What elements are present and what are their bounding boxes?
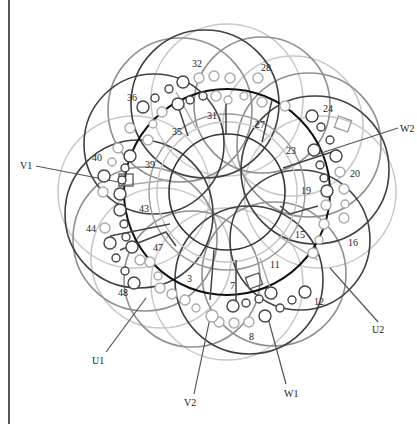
svg-text:16: 16 — [348, 237, 358, 248]
svg-text:19: 19 — [301, 185, 311, 196]
svg-text:44: 44 — [86, 223, 96, 234]
terminal-v1: V1 — [20, 160, 32, 171]
terminal-w2: W2 — [400, 123, 414, 134]
terminal-labels: V1 W2 U1 V2 W1 U2 — [20, 123, 414, 408]
svg-text:43: 43 — [139, 203, 149, 214]
svg-text:40: 40 — [92, 152, 102, 163]
terminal-w1: W1 — [284, 388, 298, 399]
svg-text:32: 32 — [192, 58, 202, 69]
svg-text:24: 24 — [323, 103, 333, 114]
svg-text:28: 28 — [261, 62, 271, 73]
svg-text:48: 48 — [118, 287, 128, 298]
svg-text:3: 3 — [187, 273, 192, 284]
winding-diagram: 3 7 11 15 19 23 27 31 35 39 43 47 8 12 1… — [0, 0, 417, 424]
svg-text:20: 20 — [350, 168, 360, 179]
svg-text:11: 11 — [270, 259, 280, 270]
terminal-u1: U1 — [92, 355, 104, 366]
svg-text:23: 23 — [286, 145, 296, 156]
svg-text:27: 27 — [255, 119, 265, 130]
svg-text:8: 8 — [249, 331, 254, 342]
svg-text:39: 39 — [145, 159, 155, 170]
svg-text:12: 12 — [314, 296, 324, 307]
svg-text:31: 31 — [207, 110, 217, 121]
svg-text:7: 7 — [230, 280, 235, 291]
svg-text:15: 15 — [295, 229, 305, 240]
svg-text:47: 47 — [153, 242, 163, 253]
coil-node-chain-ne — [306, 110, 342, 197]
slot-labels: 3 7 11 15 19 23 27 31 35 39 43 47 — [139, 110, 311, 291]
coil-node-chain-se — [227, 286, 311, 322]
winding-diagram-frame: 3 7 11 15 19 23 27 31 35 39 43 47 8 12 1… — [0, 0, 417, 424]
svg-text:36: 36 — [127, 92, 137, 103]
terminal-v2: V2 — [184, 397, 196, 408]
svg-text:35: 35 — [172, 126, 182, 137]
terminal-u2: U2 — [372, 324, 384, 335]
